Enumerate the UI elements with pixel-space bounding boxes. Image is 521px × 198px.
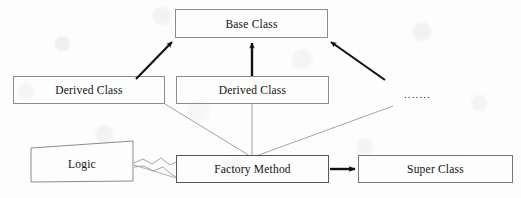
diagram-canvas: Base Class Derived Class Derived Class L…: [0, 0, 521, 198]
ellipsis-label: .......: [404, 88, 431, 100]
zigzag-connector-spine: [134, 165, 176, 178]
node-label-super-class: Super Class: [358, 155, 513, 183]
node-label-logic: Logic: [31, 145, 133, 182]
node-label-factory-method: Factory Method: [176, 155, 329, 183]
node-label-base-class: Base Class: [175, 9, 328, 38]
thin-association-lines: [165, 104, 393, 156]
edge-derived-left-to-base: [136, 42, 172, 79]
edge-others-to-base: [331, 42, 385, 80]
edge-logic-to-factory: [134, 158, 176, 178]
inheritance-arrows: [136, 42, 385, 80]
edge-factory-to-others: [256, 106, 393, 156]
node-label-derived-class-middle: Derived Class: [176, 76, 329, 104]
node-label-derived-class-left: Derived Class: [13, 76, 165, 104]
edge-factory-to-derived-left: [165, 104, 250, 156]
zigzag-connector-upper: [134, 158, 176, 165]
